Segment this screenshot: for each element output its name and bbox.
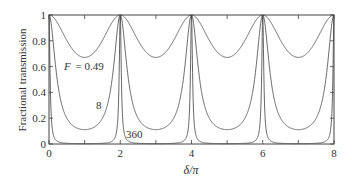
x-tick-label: 2 — [118, 147, 124, 159]
x-axis-label: δ/π — [184, 163, 200, 177]
chart: 02468 00.20.40.60.81 Fractional transmis… — [0, 0, 352, 183]
x-tick-label: 0 — [46, 147, 52, 159]
x-tick-label: 4 — [189, 147, 195, 159]
y-tick-labels: 00.20.40.60.81 — [32, 9, 46, 150]
x-tick-label: 8 — [331, 147, 337, 159]
curve-label-f360: 360 — [126, 128, 143, 140]
y-axis-label: Fractional transmission — [16, 28, 28, 131]
x-tick-label: 6 — [260, 147, 266, 159]
y-tick-label: 0.6 — [32, 61, 46, 73]
curve-label-f8: 8 — [96, 99, 102, 111]
y-tick-label: 1 — [41, 9, 47, 21]
y-tick-label: 0.4 — [32, 86, 46, 98]
plot-frame — [49, 15, 334, 144]
curve-360 — [49, 15, 334, 144]
curve-label-f049-prefix: F — [63, 60, 71, 72]
curve-8 — [49, 15, 334, 130]
y-tick-label: 0 — [41, 138, 47, 150]
curves-group — [49, 15, 334, 144]
x-tick-labels: 02468 — [46, 147, 337, 159]
curve-label-f049: F = 0.49 — [63, 60, 104, 72]
y-tick-label: 0.2 — [32, 112, 46, 124]
curve-label-f049-value: = 0.49 — [75, 60, 104, 72]
ticks-group — [49, 15, 334, 144]
y-tick-label: 0.8 — [32, 35, 46, 47]
